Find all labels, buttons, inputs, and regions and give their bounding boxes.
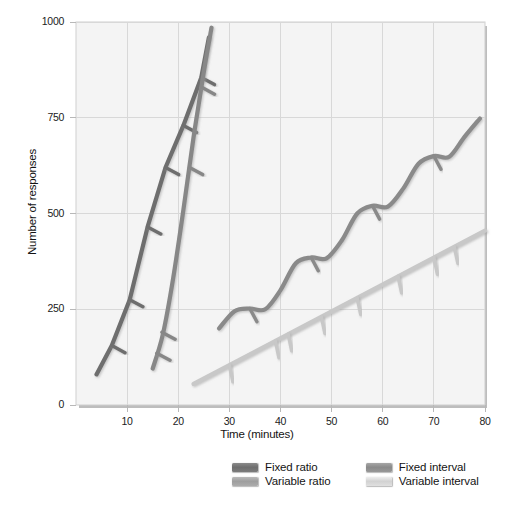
- legend-entry[interactable]: Fixed ratio: [232, 461, 354, 473]
- legend-label: Variable ratio: [265, 475, 331, 487]
- x-tick-label: 30: [209, 415, 249, 427]
- legend-label: Fixed ratio: [265, 461, 318, 473]
- legend-swatch-icon: [366, 463, 392, 472]
- x-tick-label: 10: [107, 415, 147, 427]
- x-tick-label: 70: [414, 415, 454, 427]
- chart-legend: Fixed ratioFixed intervalVariable ratioV…: [232, 461, 502, 487]
- legend-label: Variable interval: [399, 475, 479, 487]
- y-tick-label: 1000: [22, 15, 64, 27]
- y-tick-label: 0: [22, 398, 64, 410]
- legend-swatch-icon: [366, 477, 392, 486]
- x-tick-label: 50: [312, 415, 352, 427]
- x-axis-title: Time (minutes): [0, 428, 514, 440]
- y-tick-label: 750: [22, 111, 64, 123]
- legend-label: Fixed interval: [399, 461, 466, 473]
- legend-entry[interactable]: Variable interval: [366, 475, 502, 487]
- x-tick-label: 60: [363, 415, 403, 427]
- x-tick-label: 40: [261, 415, 301, 427]
- legend-entry[interactable]: Variable ratio: [232, 475, 354, 487]
- y-tick-label: 250: [22, 302, 64, 314]
- chart-container: 02505007501000 1020304050607080 Number o…: [0, 0, 514, 511]
- legend-swatch-icon: [232, 477, 258, 486]
- legend-entry[interactable]: Fixed interval: [366, 461, 502, 473]
- y-axis-title: Number of responses: [26, 122, 38, 282]
- x-tick-label: 20: [158, 415, 198, 427]
- x-tick-label: 80: [465, 415, 505, 427]
- legend-swatch-icon: [232, 463, 258, 472]
